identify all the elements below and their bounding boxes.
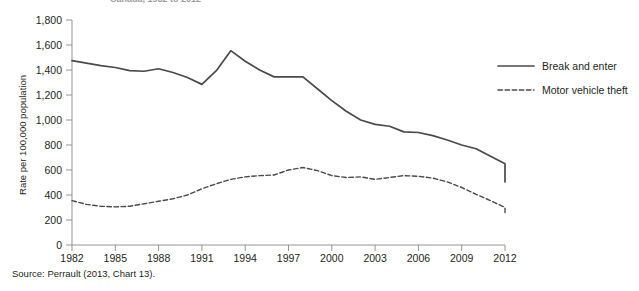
x-tick-label: 1997 [277,252,301,264]
series-paths [72,51,505,215]
y-tick-label: 0 [56,239,62,251]
x-tick-label: 1982 [60,252,84,264]
x-tick-label: 2000 [320,252,344,264]
x-tick-label: 2003 [363,252,387,264]
x-tick-label: 1988 [147,252,171,264]
legend-label-0: Break and enter [542,60,617,72]
source-note: Source: Perrault (2013, Chart 13). [12,268,155,279]
x-tick-label: 1985 [104,252,128,264]
y-tick-label: 1,200 [36,89,62,101]
line-chart-figure: Rate per 100,000 population 020040060080… [0,0,639,291]
y-axis-title-text: Rate per 100,000 population [17,75,28,195]
x-axis-ticks: 1982198519881991199419972000200320062009… [60,245,517,264]
y-tick-label: 600 [44,164,62,176]
x-tick-label: 2012 [493,252,517,264]
y-tick-label: 1,800 [36,14,62,26]
y-axis-title: Rate per 100,000 population [17,75,28,195]
y-tick-label: 1,600 [36,39,62,51]
legend-label-1: Motor vehicle theft [542,84,628,96]
x-tick-label: 2009 [450,252,474,264]
axis-lines [72,20,505,245]
y-axis-ticks: 02004006008001,0001,2001,4001,6001,800 [36,14,72,251]
y-tick-label: 1,400 [36,64,62,76]
x-tick-label: 2006 [407,252,431,264]
y-tick-label: 800 [44,139,62,151]
y-tick-label: 200 [44,214,62,226]
x-tick-label: 1991 [190,252,214,264]
series-line-0 [72,51,505,182]
series-line-1 [72,168,505,216]
y-tick-label: 1,000 [36,114,62,126]
chart-legend: Break and enterMotor vehicle theft [498,60,628,96]
x-tick-label: 1994 [234,252,258,264]
y-tick-label: 400 [44,189,62,201]
